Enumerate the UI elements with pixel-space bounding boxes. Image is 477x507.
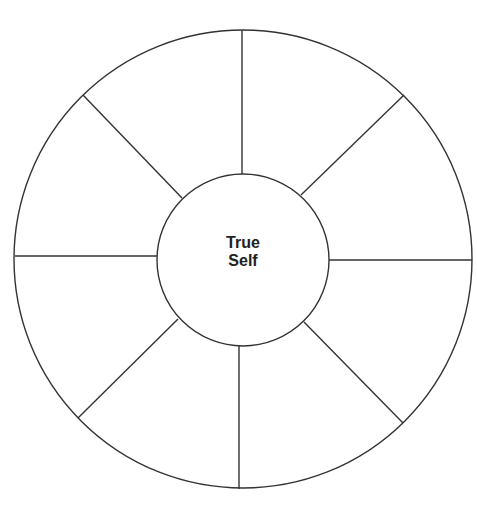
spoke-6 — [78, 319, 178, 418]
center-label-line2: Self — [193, 252, 293, 270]
center-label-line1: True — [193, 234, 293, 252]
spoke-4 — [304, 322, 403, 423]
spoke-8 — [83, 95, 182, 198]
spoke-2 — [301, 95, 404, 195]
center-label: True Self — [193, 234, 293, 270]
